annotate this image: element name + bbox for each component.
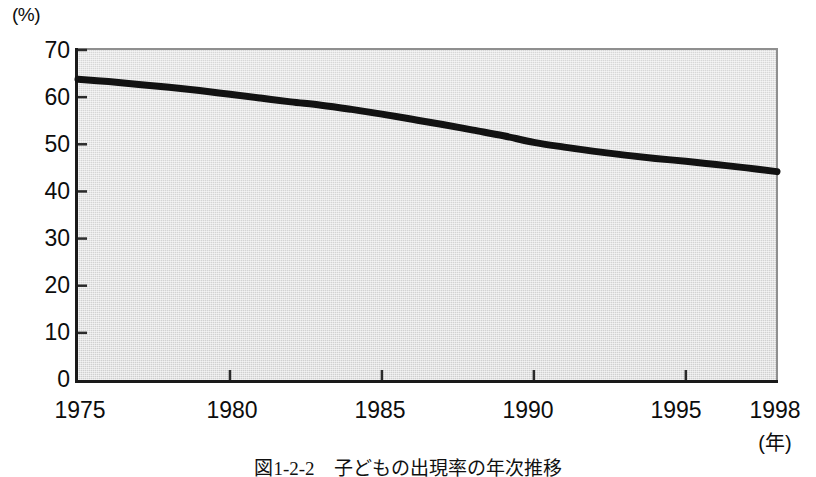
x-axis-tick-labels: 1975 1980 1985 1990 1995 1998 (年)	[0, 0, 816, 477]
x-tick-1998: 1998	[715, 398, 816, 422]
figure-caption: 図1-2-2 子どもの出現率の年次推移	[0, 458, 816, 477]
figure-container: (%) 70 60 50 40 30 20 10 0 1975 1980 198…	[0, 0, 816, 477]
x-tick-1980: 1980	[172, 398, 292, 422]
x-axis-unit-label: (年)	[715, 432, 816, 454]
x-tick-1985: 1985	[320, 398, 440, 422]
x-tick-1990: 1990	[468, 398, 588, 422]
x-tick-1975: 1975	[20, 398, 140, 422]
